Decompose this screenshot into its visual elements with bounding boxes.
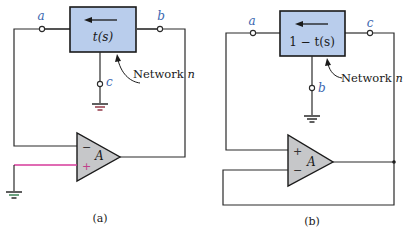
- panel-a: t(s) a b c Network n − + A: [6, 7, 195, 225]
- leader-arrowhead-icon: [115, 54, 121, 62]
- caption-a: (a): [92, 212, 107, 225]
- wire-a-to-noninverting-input: [226, 33, 288, 150]
- node-label-b: b: [157, 9, 165, 23]
- terminal-b-icon: [157, 26, 162, 31]
- terminal-c-icon: [97, 81, 102, 86]
- opamp-b-gain-label: A: [306, 155, 316, 169]
- transfer-function-b: 1 − t(s): [289, 35, 335, 49]
- wire-a-to-inverting-input: [14, 29, 77, 146]
- panel-b: 1 − t(s) a c b Network n + − A (b): [223, 11, 403, 228]
- opamp-b-noninverting-sign: +: [293, 145, 302, 158]
- node-label-a: a: [37, 9, 44, 23]
- opamp-a-inverting-sign: −: [82, 141, 91, 154]
- opamp-b-inverting-sign: −: [293, 164, 302, 177]
- terminal-a-icon: [39, 26, 44, 31]
- opamp-a-noninverting-sign: +: [82, 160, 91, 173]
- network-label-a: Network n: [133, 67, 195, 81]
- node-label-c: c: [367, 16, 374, 30]
- node-label-a: a: [248, 14, 255, 28]
- terminal-a-icon: [250, 30, 255, 35]
- node-label-c: c: [106, 75, 113, 89]
- terminal-b-icon: [309, 85, 314, 90]
- leader-arrowhead-icon: [325, 58, 331, 66]
- circuit-figure: t(s) a b c Network n − + A: [0, 0, 404, 238]
- wire-c-to-output: [370, 33, 394, 162]
- node-label-b: b: [318, 81, 326, 95]
- ground-icon: [304, 116, 320, 122]
- network-leader-line: [328, 64, 342, 78]
- network-box-b: [280, 11, 345, 56]
- terminal-c-icon: [367, 30, 372, 35]
- transfer-function-a: t(s): [93, 30, 114, 44]
- opamp-a-gain-label: A: [94, 149, 104, 163]
- ground-icon: [6, 192, 22, 198]
- ground-icon: [92, 104, 108, 110]
- network-label-b: Network n: [341, 71, 403, 85]
- caption-b: (b): [304, 215, 320, 228]
